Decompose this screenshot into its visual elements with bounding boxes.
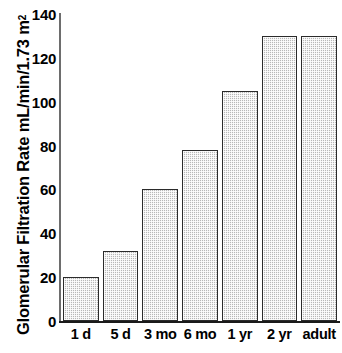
bar xyxy=(142,189,178,321)
y-axis-tick-labels: 020406080100120140 xyxy=(0,0,56,353)
y-tick-label: 120 xyxy=(4,49,56,66)
bar xyxy=(222,91,258,321)
y-tick-label: 40 xyxy=(4,225,56,242)
bar-series xyxy=(61,14,339,321)
y-tick-label: 140 xyxy=(4,6,56,23)
bar xyxy=(301,36,337,321)
x-tick-label: 5 d xyxy=(101,326,141,342)
y-tick-label: 80 xyxy=(4,137,56,154)
y-tick-label: 100 xyxy=(4,93,56,110)
y-tick-label: 20 xyxy=(4,269,56,286)
x-tick-label: 6 mo xyxy=(180,326,220,342)
bar xyxy=(182,150,218,321)
x-tick-label: adult xyxy=(299,326,339,342)
bar xyxy=(63,277,99,321)
chart-figure: Glomerular Filtration Rate mL/min/1.73 m… xyxy=(0,0,342,353)
x-tick-label: 2 yr xyxy=(260,326,300,342)
caption-fragment xyxy=(18,345,318,353)
x-tick-label: 1 yr xyxy=(220,326,260,342)
y-tick-label: 60 xyxy=(4,181,56,198)
x-axis-line xyxy=(59,321,340,323)
bar xyxy=(103,251,139,321)
x-tick-label: 1 d xyxy=(61,326,101,342)
bar xyxy=(262,36,298,321)
y-tick-label: 0 xyxy=(4,313,56,330)
x-tick-label: 3 mo xyxy=(140,326,180,342)
